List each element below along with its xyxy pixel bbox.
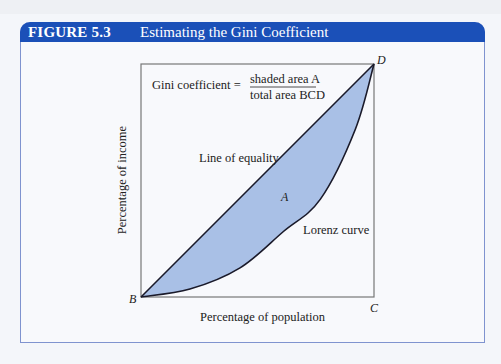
point-c-label: C xyxy=(370,301,379,315)
formula-lhs: Gini coefficient = xyxy=(152,78,241,92)
lorenz-curve-label: Lorenz curve xyxy=(303,223,370,237)
x-axis-label: Percentage of population xyxy=(200,310,326,324)
point-b-label: B xyxy=(129,292,137,306)
point-d-label: D xyxy=(376,53,386,67)
formula-denominator: total area BCD xyxy=(250,88,325,102)
area-a-label: A xyxy=(280,190,289,204)
line-of-equality-label: Line of equality xyxy=(199,151,280,165)
formula-numerator: shaded area A xyxy=(250,72,320,86)
gini-diagram: Gini coefficient = shaded area A total a… xyxy=(0,0,501,364)
y-axis-label: Percentage of income xyxy=(115,125,129,234)
